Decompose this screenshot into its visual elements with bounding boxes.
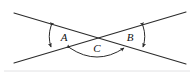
angle-a-arc (49, 26, 51, 47)
angle-c-label: C (93, 42, 101, 54)
intersecting-lines-diagram: A B C (0, 0, 194, 76)
angle-b-label: B (127, 31, 134, 43)
angle-b-arc (143, 26, 145, 47)
angle-a-label: A (60, 31, 68, 43)
line-up-right (14, 12, 186, 63)
figure-container: A B C (0, 0, 194, 76)
line-down-right (14, 13, 186, 64)
